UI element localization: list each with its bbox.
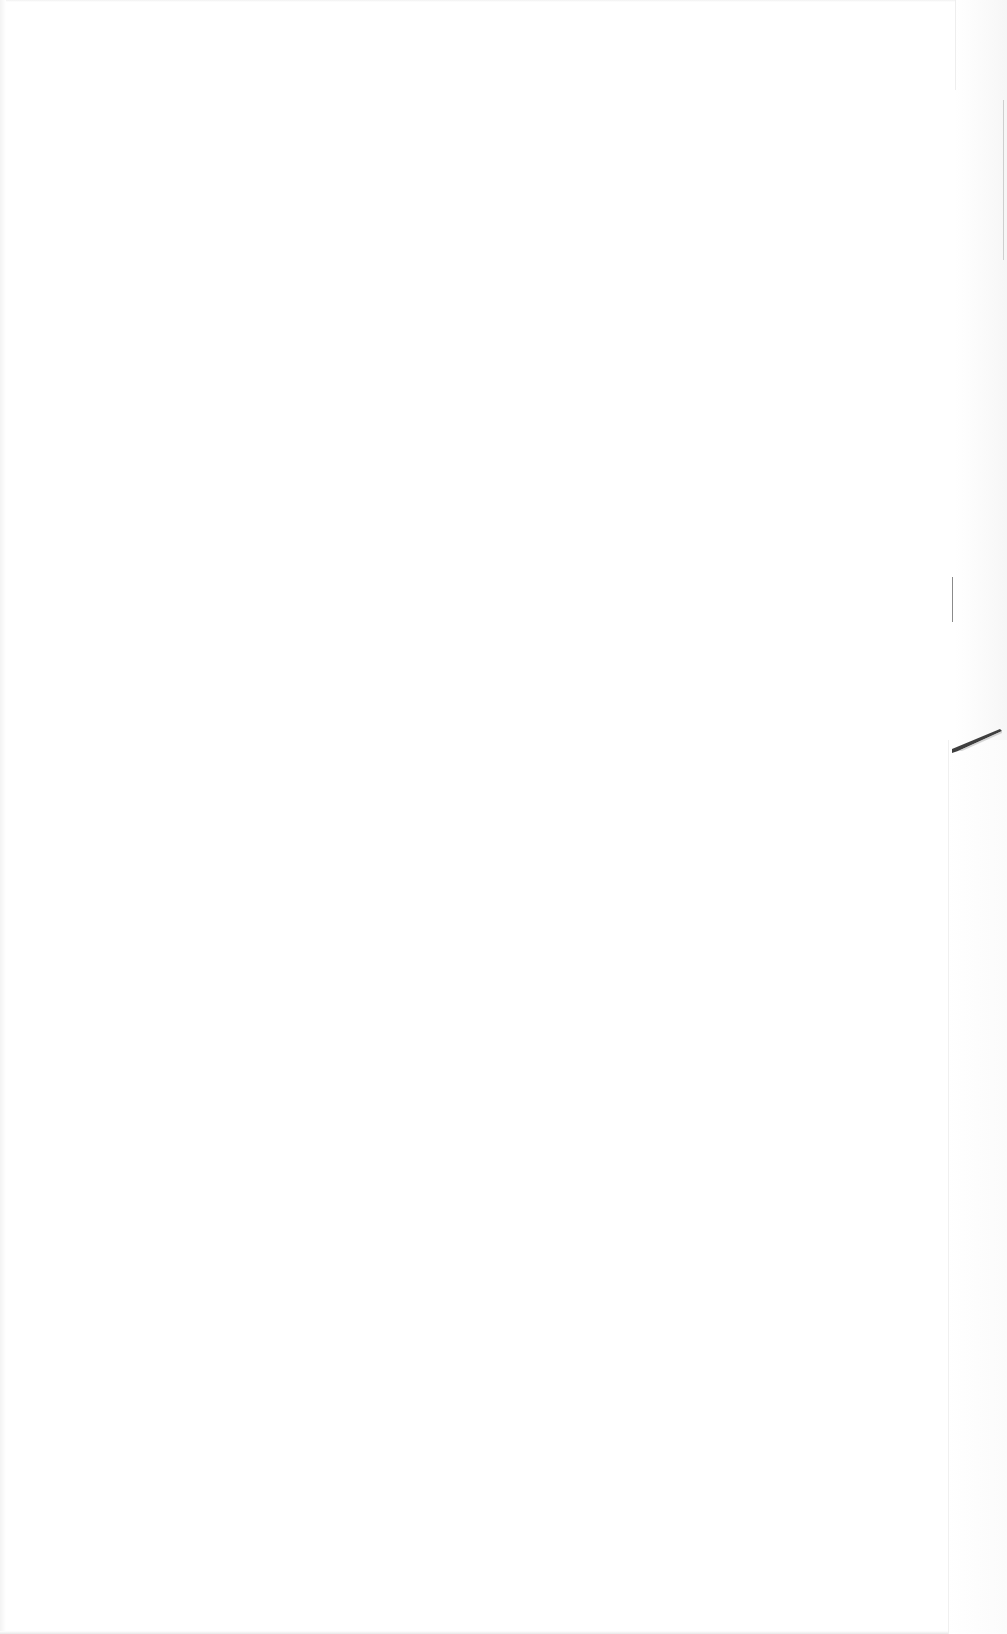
scan-mark-vertical [952, 577, 953, 622]
scan-mark-wedge [952, 727, 1002, 753]
page-fold-line-lower [948, 740, 949, 1634]
scan-edge-left [0, 0, 6, 1634]
page-edge-line-right [1003, 100, 1004, 260]
page-fold-shadow-upper [955, 0, 1007, 740]
blank-page [0, 0, 1007, 1634]
scan-edge-top [0, 0, 1007, 2]
page-fold-line-upper [955, 0, 956, 90]
page-fold-shadow-lower [948, 740, 1007, 1634]
